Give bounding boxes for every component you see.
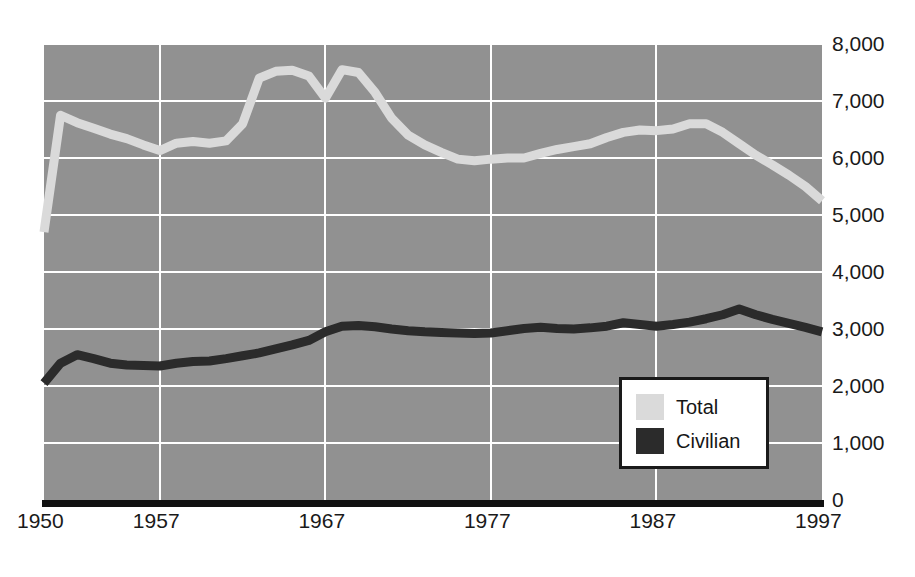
legend-item-civilian: Civilian xyxy=(636,424,766,458)
line-chart: 8,0007,0006,0005,0004,0003,0002,0001,000… xyxy=(0,0,915,577)
x-axis-tick-label: 1987 xyxy=(629,510,676,531)
x-axis-tick-label: 1957 xyxy=(133,510,180,531)
x-axis-tick-label: 1977 xyxy=(464,510,511,531)
legend-label-civilian: Civilian xyxy=(676,431,740,451)
x-axis-tick-label: 1997 xyxy=(795,510,842,531)
x-axis-tick-label: 1950 xyxy=(17,510,64,531)
legend-item-total: Total xyxy=(636,390,766,424)
legend-swatch-total-icon xyxy=(636,394,664,420)
chart-legend: Total Civilian xyxy=(619,377,769,469)
legend-swatch-civilian-icon xyxy=(636,428,664,454)
x-axis-tick-label: 1967 xyxy=(298,510,345,531)
x-axis-tick-labels: 195019571967197719871997 xyxy=(0,0,915,577)
legend-label-total: Total xyxy=(676,397,718,417)
